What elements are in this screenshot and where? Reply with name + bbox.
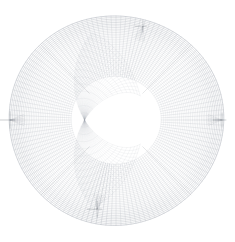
mesh-canvas [0,0,235,242]
mesh-radial-rings [9,16,224,225]
mesh-figure [0,0,235,242]
mesh-radial-spokes [9,16,224,225]
mesh-rim-outline [9,16,224,225]
